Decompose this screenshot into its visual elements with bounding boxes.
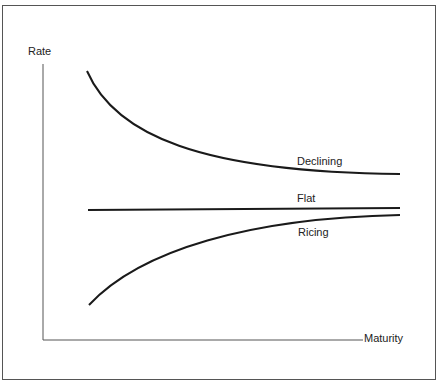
rising-label: Ricing bbox=[298, 226, 329, 238]
yield-curve-diagram bbox=[0, 0, 440, 383]
y-axis-label: Rate bbox=[28, 45, 51, 57]
flat-line bbox=[88, 208, 400, 210]
flat-label: Flat bbox=[297, 192, 315, 204]
declining-label: Declining bbox=[297, 155, 342, 167]
rising-curve bbox=[89, 215, 400, 305]
declining-curve bbox=[87, 71, 400, 174]
x-axis-label: Maturity bbox=[364, 332, 403, 344]
